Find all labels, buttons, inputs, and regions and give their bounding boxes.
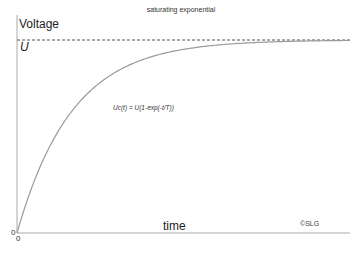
credit-label: ©SLG — [300, 220, 319, 227]
y-axis-label: Voltage — [19, 17, 59, 31]
x-origin-label: 0 — [16, 234, 20, 243]
x-axis-label: time — [163, 219, 186, 233]
chart-title: saturating exponential — [0, 6, 362, 13]
exponential-curve — [17, 40, 350, 233]
asymptote-label: U — [20, 40, 29, 54]
chart-canvas — [0, 0, 362, 253]
formula-annotation: Uc(t) = U(1-exp(-t/T)) — [113, 104, 174, 111]
y-origin-label: 0 — [11, 228, 15, 237]
